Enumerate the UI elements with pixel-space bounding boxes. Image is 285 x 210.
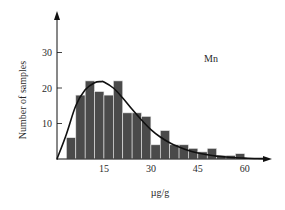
histogram-bar xyxy=(151,145,160,159)
x-ticks: 15304560 xyxy=(99,163,250,174)
histogram-bar xyxy=(123,113,132,159)
histogram-bar xyxy=(76,95,85,159)
y-axis-arrow-icon xyxy=(54,11,60,20)
histogram-bar xyxy=(104,95,113,159)
x-tick-label: 15 xyxy=(99,163,109,174)
histogram-bars xyxy=(66,81,244,159)
x-tick-label: 30 xyxy=(146,163,156,174)
histogram-chart: 102030 15304560 Mn µg/g Number of sample… xyxy=(0,0,285,210)
histogram-bar xyxy=(95,92,104,159)
histogram-bar xyxy=(160,131,169,159)
histogram-bar xyxy=(85,81,94,159)
x-tick-label: 60 xyxy=(240,163,250,174)
y-tick-label: 10 xyxy=(42,118,52,129)
x-axis-arrow-icon xyxy=(263,156,272,162)
x-axis-label: µg/g xyxy=(151,187,170,198)
histogram-bar xyxy=(132,113,141,159)
y-tick-label: 30 xyxy=(42,47,52,58)
y-ticks: 102030 xyxy=(42,47,62,129)
histogram-bar xyxy=(66,138,75,159)
y-axis-label: Number of samples xyxy=(17,61,28,139)
histogram-bar xyxy=(188,148,197,159)
histogram-bar xyxy=(207,148,216,159)
y-tick-label: 20 xyxy=(42,83,52,94)
x-tick-label: 45 xyxy=(193,163,203,174)
annotation-label: Mn xyxy=(204,53,218,64)
histogram-bar xyxy=(142,116,151,159)
